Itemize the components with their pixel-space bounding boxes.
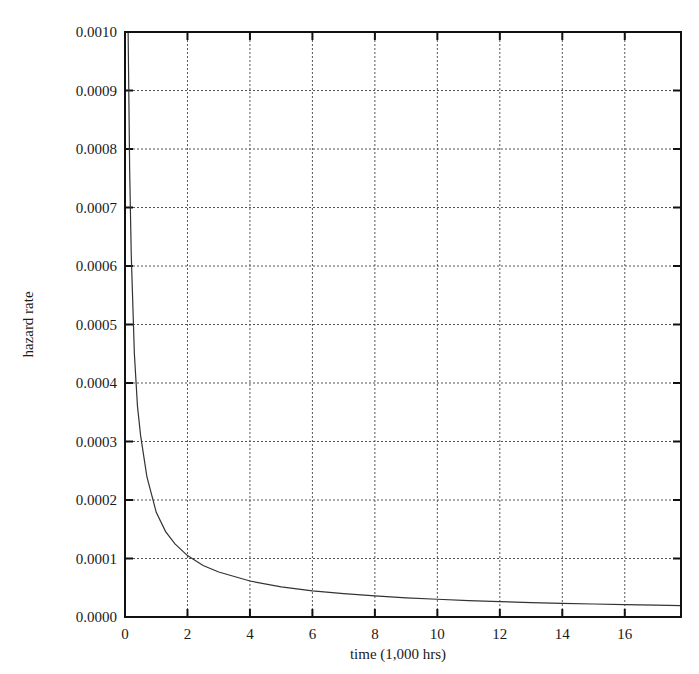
y-tick-label: 0.0002 [76,492,117,508]
x-tick-label: 4 [246,626,254,642]
x-tick-label: 10 [430,626,445,642]
x-axis-title: time (1,000 hrs) [350,646,446,663]
x-tick-label: 12 [492,626,507,642]
y-tick-label: 0.0007 [76,200,118,216]
y-axis-title: hazard rate [20,291,36,358]
y-tick-label: 0.0010 [76,24,117,40]
x-tick-label: 2 [184,626,192,642]
x-tick-label: 16 [617,626,633,642]
x-tick-label: 0 [121,626,129,642]
y-tick-label: 0.0009 [76,83,117,99]
hazard-rate-chart: 0.00000.00010.00020.00030.00040.00050.00… [0,0,699,674]
y-tick-label: 0.0006 [76,258,118,274]
grid [125,32,681,617]
y-tick-label: 0.0000 [76,609,117,625]
series-line-hazard-rate [128,32,681,606]
series-layer [128,32,681,606]
y-tick-label: 0.0005 [76,317,117,333]
x-tick-label: 6 [309,626,317,642]
y-tick-label: 0.0004 [76,375,118,391]
x-tick-label: 8 [371,626,379,642]
x-axis: 0246810121416 [121,32,633,642]
y-tick-label: 0.0003 [76,434,117,450]
y-tick-label: 0.0001 [76,551,117,567]
y-tick-label: 0.0008 [76,141,117,157]
x-tick-label: 14 [555,626,571,642]
